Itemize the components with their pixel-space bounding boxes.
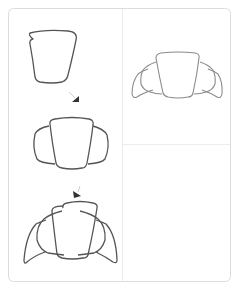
faint-mark	[204, 176, 205, 177]
croissant-tutorial-card	[0, 0, 235, 291]
